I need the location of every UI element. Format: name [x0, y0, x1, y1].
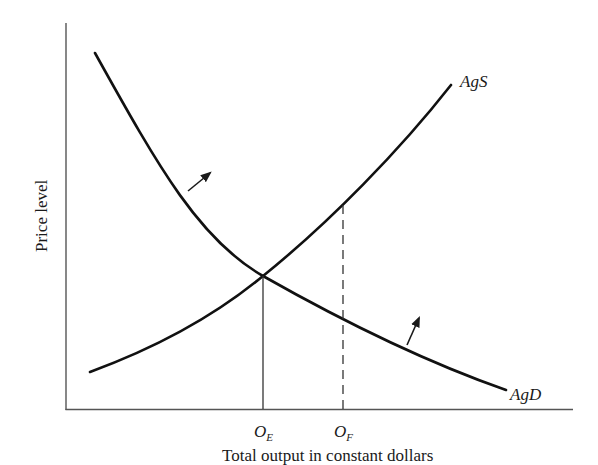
y-axis-title: Price level: [32, 180, 51, 252]
ags-label: AgS: [459, 72, 488, 91]
of-label: OF: [334, 422, 353, 443]
ags-curve: [90, 85, 451, 372]
aggregate-supply-demand-diagram: AgS AgD OE OF Total output in constant d…: [0, 0, 598, 465]
shift-arrow-icon: [407, 318, 419, 345]
x-axis-title: Total output in constant dollars: [222, 446, 433, 465]
agd-label: AgD: [509, 385, 542, 404]
agd-curve: [95, 53, 506, 390]
oe-label: OE: [254, 422, 273, 443]
shift-arrow-icon: [188, 173, 210, 191]
